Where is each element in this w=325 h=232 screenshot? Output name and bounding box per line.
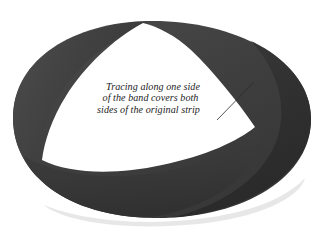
mobius-figure: Tracing along one side of the band cover… (0, 0, 325, 232)
band-body (13, 21, 311, 226)
mobius-band-illustration (0, 0, 325, 232)
